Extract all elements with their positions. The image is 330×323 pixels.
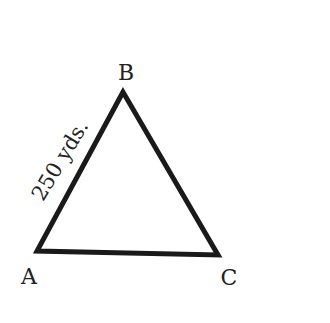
triangle-diagram: B A C 250 yds.: [0, 0, 330, 323]
vertex-label-a: A: [20, 264, 38, 289]
vertex-label-c: C: [221, 265, 238, 290]
vertex-label-b: B: [118, 60, 134, 85]
